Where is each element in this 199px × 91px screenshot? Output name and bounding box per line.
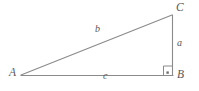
side-label-a: a	[177, 38, 182, 48]
vertex-label-c: C	[176, 2, 184, 14]
right-angle-dot	[166, 71, 168, 73]
vertex-label-a: A	[9, 67, 16, 79]
vertex-label-b: B	[177, 69, 184, 81]
side-label-b: b	[95, 24, 100, 34]
triangle-svg	[0, 0, 199, 91]
side-label-c: c	[103, 71, 107, 81]
geometry-diagram: A B C a b c	[0, 0, 199, 91]
